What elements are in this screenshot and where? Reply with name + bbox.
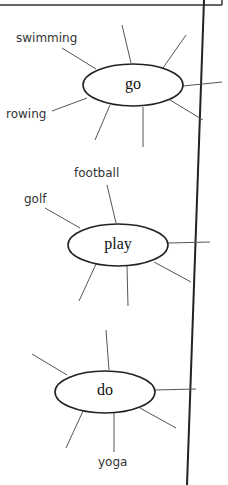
node-play-label: play bbox=[68, 235, 168, 253]
label-swimming: swimming bbox=[16, 31, 77, 45]
node-do-label: do bbox=[55, 381, 155, 399]
label-football: football bbox=[74, 166, 119, 180]
diagram-canvas: swimming rowing go football golf play do… bbox=[0, 0, 228, 485]
node-go-label: go bbox=[83, 75, 183, 93]
label-golf: golf bbox=[24, 192, 47, 206]
label-rowing: rowing bbox=[6, 107, 46, 121]
label-yoga: yoga bbox=[98, 455, 127, 469]
